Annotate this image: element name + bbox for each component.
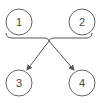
arrow-to-4 [49, 41, 74, 70]
node-2: 2 [69, 9, 95, 35]
node-3-label: 3 [16, 77, 22, 89]
diagram-canvas: 1 2 3 4 [0, 0, 102, 103]
node-4-label: 4 [79, 77, 85, 89]
node-4: 4 [69, 70, 95, 96]
node-3: 3 [6, 70, 32, 96]
node-1-label: 1 [16, 16, 22, 28]
node-2-label: 2 [79, 16, 85, 28]
arrow-to-3 [27, 41, 49, 70]
node-1: 1 [6, 9, 32, 35]
